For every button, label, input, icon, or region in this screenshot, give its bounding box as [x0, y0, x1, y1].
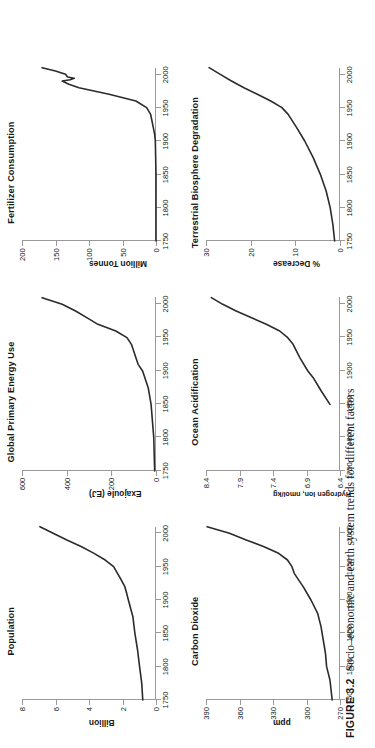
figure-panel-grid: Population02468175018001850190019502000B…: [4, 62, 370, 742]
x-tick-label: 1950: [161, 558, 170, 575]
x-tick-label: 1800: [161, 200, 170, 217]
y-tick: [206, 241, 207, 246]
chart-panel-global-primary-energy-use: Global Primary Energy Use020040060017501…: [4, 291, 186, 512]
y-tick-label: 8: [18, 707, 27, 711]
y-tick: [295, 241, 296, 246]
series-line-carbon-dioxide: [206, 527, 340, 700]
y-axis-label-carbon-dioxide: ppm: [273, 718, 291, 728]
y-tick-label: 300: [302, 707, 311, 720]
x-tick-label: 1750: [161, 233, 170, 250]
chart-panel-terrestrial-biosphere-degradation: Terrestrial Biosphere Degradation0102030…: [188, 62, 370, 283]
x-tick-label: 1950: [161, 329, 170, 346]
y-tick: [111, 471, 112, 476]
y-tick-label: 4: [85, 707, 94, 711]
y-axis-label-terrestrial-biosphere-degradation: % Decrease: [273, 259, 320, 269]
y-tick: [273, 471, 274, 476]
y-tick: [240, 471, 241, 476]
y-tick: [240, 700, 241, 705]
x-tick-label: 2000: [161, 66, 170, 83]
series-line-ocean-acidification: [206, 297, 340, 470]
chart-title-fertilizer-consumption: Fertilizer Consumption: [6, 62, 16, 283]
y-tick: [340, 241, 341, 246]
y-tick-label: 6: [51, 707, 60, 711]
x-tick-label: 2000: [161, 296, 170, 313]
plot-area-carbon-dioxide: 270300330360390175018001850190019502000p…: [206, 527, 340, 700]
chart-title-terrestrial-biosphere-degradation: Terrestrial Biosphere Degradation: [190, 62, 200, 283]
y-tick-label: 150: [51, 248, 60, 261]
series-line-population: [22, 527, 156, 700]
y-tick: [89, 700, 90, 705]
chart-panel-population: Population02468175018001850190019502000B…: [4, 521, 186, 742]
y-tick: [307, 700, 308, 705]
y-tick: [206, 471, 207, 476]
y-tick: [22, 471, 23, 476]
x-tick-label: 1900: [161, 592, 170, 609]
x-tick-label: 1800: [161, 658, 170, 675]
chart-title-global-primary-energy-use: Global Primary Energy Use: [6, 291, 16, 512]
chart-title-population: Population: [6, 521, 16, 742]
series-line-terrestrial-biosphere-degradation: [206, 68, 340, 241]
x-tick-label: 2000: [161, 525, 170, 542]
plot-area-fertilizer-consumption: 050100150200175018001850190019502000Mill…: [22, 68, 156, 241]
y-tick-label: 0: [152, 248, 161, 252]
x-tick-label: 1850: [161, 396, 170, 413]
y-tick: [56, 241, 57, 246]
y-tick: [273, 700, 274, 705]
y-tick-label: 50: [118, 248, 127, 256]
y-tick: [67, 471, 68, 476]
chart-panel-fertilizer-consumption: Fertilizer Consumption050100150200175018…: [4, 62, 186, 283]
y-tick: [123, 700, 124, 705]
y-tick-label: 200: [18, 248, 27, 261]
figure-caption-text: Socio–economic and earth system trends f…: [344, 389, 357, 672]
plot-area-population: 02468175018001850190019502000Billion: [22, 527, 156, 700]
y-tick: [340, 700, 341, 705]
figure-caption-label: FIGURE 3.2: [344, 678, 356, 738]
y-axis-label-ocean-acidification: Hydrogen Ion, nmol/kg: [273, 489, 351, 498]
y-tick-label: 20: [246, 248, 255, 256]
y-tick-label: 10: [291, 248, 300, 256]
y-tick: [340, 471, 341, 476]
plot-area-ocean-acidification: 6.46.97.47.98.4175018001850190019502000H…: [206, 297, 340, 470]
y-tick: [206, 700, 207, 705]
x-tick-label: 1850: [161, 166, 170, 183]
y-tick: [56, 700, 57, 705]
y-tick: [22, 700, 23, 705]
y-tick-label: 8.4: [202, 478, 211, 489]
figure-page: Population02468175018001850190019502000B…: [0, 0, 375, 748]
y-tick: [123, 241, 124, 246]
figure-caption: FIGURE 3.2Socio–economic and earth syste…: [344, 38, 357, 738]
y-tick: [307, 471, 308, 476]
series-line-fertilizer-consumption: [22, 68, 156, 241]
y-axis-label-global-primary-energy-use: Exajoule (EJ): [89, 489, 142, 499]
chart-panel-carbon-dioxide: Carbon Dioxide27030033036039017501800185…: [188, 521, 370, 742]
y-tick: [251, 241, 252, 246]
y-tick-label: 0: [152, 478, 161, 482]
x-tick-label: 1950: [161, 100, 170, 117]
y-tick: [156, 700, 157, 705]
y-tick: [89, 241, 90, 246]
y-tick-label: 7.9: [235, 478, 244, 489]
y-tick-label: 390: [202, 707, 211, 720]
y-tick: [22, 241, 23, 246]
chart-title-ocean-acidification: Ocean Acidification: [190, 291, 200, 512]
plot-area-terrestrial-biosphere-degradation: 0102030175018001850190019502000% Decreas…: [206, 68, 340, 241]
y-tick-label: 6.9: [302, 478, 311, 489]
y-axis-label-population: Billion: [89, 718, 115, 728]
y-tick: [156, 471, 157, 476]
series-line-global-primary-energy-use: [22, 297, 156, 470]
x-tick-label: 1850: [161, 625, 170, 642]
chart-title-carbon-dioxide: Carbon Dioxide: [190, 521, 200, 742]
x-tick-label: 1750: [161, 692, 170, 709]
x-tick-label: 1900: [161, 362, 170, 379]
y-tick-label: 400: [62, 478, 71, 491]
y-tick-label: 30: [202, 248, 211, 256]
y-tick-label: 0: [152, 707, 161, 711]
x-tick-label: 1750: [161, 462, 170, 479]
x-tick-label: 1900: [161, 133, 170, 150]
y-tick-label: 360: [235, 707, 244, 720]
y-tick-label: 7.4: [269, 478, 278, 489]
y-axis-label-fertilizer-consumption: Million Tonnes: [89, 259, 147, 269]
x-tick-label: 1800: [161, 429, 170, 446]
plot-area-global-primary-energy-use: 0200400600175018001850190019502000Exajou…: [22, 297, 156, 470]
y-tick-label: 600: [18, 478, 27, 491]
